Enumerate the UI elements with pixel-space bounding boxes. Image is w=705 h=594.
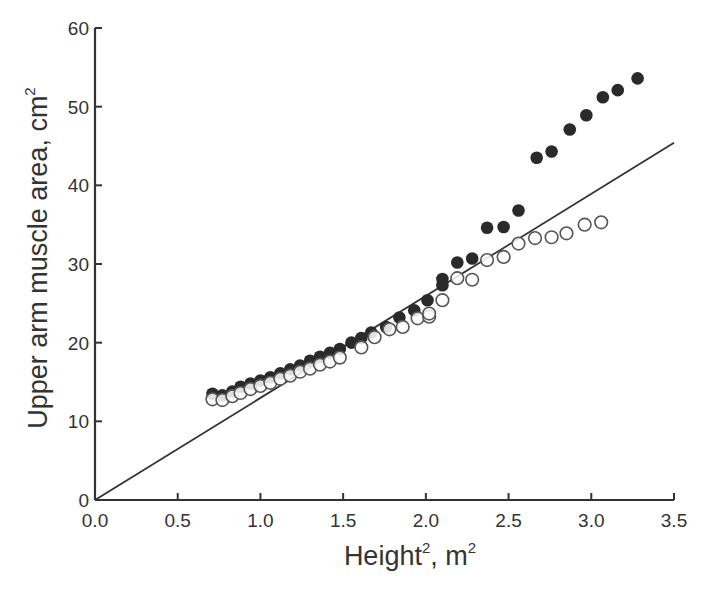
x-tick-label: 0.0 bbox=[82, 510, 108, 531]
open-data-point bbox=[368, 331, 381, 344]
x-tick-label: 1.0 bbox=[247, 510, 273, 531]
open-data-point bbox=[334, 351, 347, 364]
x-tick-label: 2.0 bbox=[413, 510, 439, 531]
filled-data-point bbox=[545, 145, 558, 158]
y-tick-label: 20 bbox=[68, 333, 89, 354]
open-data-point bbox=[383, 323, 396, 336]
filled-data-point bbox=[451, 256, 464, 269]
open-data-point bbox=[451, 272, 464, 285]
filled-data-point bbox=[563, 123, 576, 136]
open-data-point bbox=[560, 227, 573, 240]
filled-data-point bbox=[497, 221, 510, 234]
filled-data-point bbox=[436, 273, 449, 286]
scatter-chart: 01020304050600.00.51.01.52.02.53.03.5 He… bbox=[0, 0, 705, 594]
filled-data-point bbox=[481, 222, 494, 235]
filled-data-point bbox=[421, 294, 434, 307]
open-data-point bbox=[396, 321, 409, 334]
y-tick-label: 10 bbox=[68, 411, 89, 432]
y-tick-label: 60 bbox=[68, 18, 89, 39]
open-data-point bbox=[529, 232, 542, 245]
y-tick-label: 40 bbox=[68, 175, 89, 196]
filled-data-point bbox=[530, 152, 543, 165]
open-data-point bbox=[497, 251, 510, 264]
filled-data-point bbox=[631, 72, 644, 85]
axes: 01020304050600.00.51.01.52.02.53.03.5 bbox=[68, 18, 687, 531]
open-data-point bbox=[411, 312, 424, 325]
x-tick-label: 2.5 bbox=[495, 510, 521, 531]
open-data-point bbox=[466, 273, 479, 286]
filled-data-point bbox=[466, 252, 479, 265]
plot-area bbox=[95, 72, 674, 500]
open-data-point bbox=[578, 218, 591, 231]
y-axis-title: Upper arm muscle area, cm2 bbox=[21, 87, 53, 428]
y-tick-label: 30 bbox=[68, 254, 89, 275]
open-data-point bbox=[595, 216, 608, 229]
x-tick-label: 0.5 bbox=[165, 510, 191, 531]
open-data-point bbox=[355, 341, 368, 354]
filled-data-point bbox=[512, 204, 525, 217]
open-data-point bbox=[436, 294, 449, 307]
y-tick-label: 0 bbox=[78, 490, 89, 511]
open-data-point bbox=[423, 307, 436, 320]
filled-data-point bbox=[611, 84, 624, 97]
open-data-point bbox=[481, 254, 494, 267]
open-data-point bbox=[545, 231, 558, 244]
filled-data-point bbox=[597, 91, 610, 104]
x-tick-label: 3.0 bbox=[578, 510, 604, 531]
x-axis-title: Height2, m2 bbox=[344, 539, 476, 571]
x-tick-label: 1.5 bbox=[330, 510, 356, 531]
y-tick-label: 50 bbox=[68, 97, 89, 118]
filled-data-point bbox=[580, 109, 593, 122]
open-data-point bbox=[512, 237, 525, 250]
x-tick-label: 3.5 bbox=[661, 510, 687, 531]
